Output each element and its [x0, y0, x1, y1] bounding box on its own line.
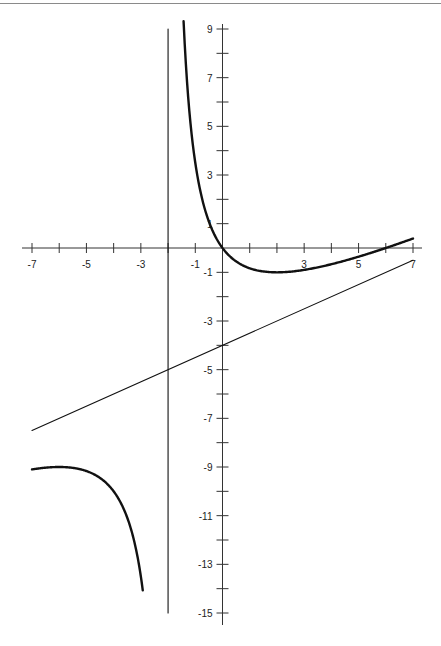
function-graph: -7-5-3-135797531-1-3-5-7-9-11-13-15	[0, 0, 441, 646]
y-tick-label: 7	[207, 73, 213, 84]
x-tick-label: -1	[191, 259, 200, 270]
x-tick-label: -7	[28, 259, 37, 270]
y-tick-label: -9	[204, 462, 213, 473]
y-tick-label: -11	[199, 511, 213, 522]
axes	[22, 24, 422, 625]
y-tick-label: -7	[204, 413, 213, 424]
x-tick-label: 5	[356, 259, 362, 270]
y-tick-label: -3	[204, 316, 213, 327]
y-tick-label: 3	[207, 170, 213, 181]
y-tick-label: 9	[207, 24, 213, 35]
x-tick-label: -5	[82, 259, 91, 270]
curve-left-branch	[32, 467, 143, 590]
curve-right-branch	[184, 21, 413, 272]
y-tick-label: -15	[198, 608, 213, 619]
y-tick-label: 5	[207, 121, 213, 132]
x-tick-label: -3	[136, 259, 145, 270]
y-tick-label: -13	[198, 559, 213, 570]
y-tick-label: -1	[204, 267, 213, 278]
y-tick-label: -5	[204, 365, 213, 376]
